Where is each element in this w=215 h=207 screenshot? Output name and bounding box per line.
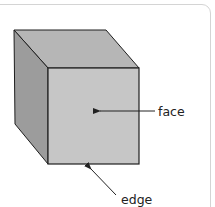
edge-arrow-icon: [91, 169, 116, 195]
cube-front-face: [48, 68, 139, 164]
edge-callout: edge: [91, 169, 153, 207]
cube-diagram: face edge: [0, 0, 215, 207]
edge-label: edge: [121, 192, 153, 207]
face-label: face: [158, 104, 185, 119]
cube: [14, 30, 139, 164]
